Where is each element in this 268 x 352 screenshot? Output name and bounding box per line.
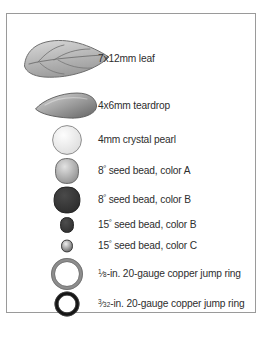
legend-row-label: 4mm crystal pearl	[98, 135, 176, 145]
figure-frame: 7x12mm leaf4x6mm teardrop4mm crystal pea…	[6, 13, 256, 313]
seed-bead-8-color-a-icon	[52, 155, 82, 187]
label-text: 4mm crystal pearl	[98, 134, 176, 145]
label-text: seed bead, color A	[106, 165, 190, 176]
materials-legend-figure: 7x12mm leaf4x6mm teardrop4mm crystal pea…	[0, 0, 268, 352]
seed-bead-15-color-c-icon	[58, 237, 76, 256]
legend-row-label: 15º seed bead, color C	[98, 241, 197, 251]
teardrop-bead-icon	[32, 89, 100, 123]
label-text: seed bead, color B	[111, 219, 196, 230]
seed-bead-8-color-b-icon	[51, 184, 84, 217]
jump-ring-large-icon	[48, 255, 86, 293]
label-text: seed bead, color B	[106, 194, 191, 205]
size-prefix: 15	[98, 240, 109, 251]
label-text: 7x12mm leaf	[98, 53, 155, 64]
seed-bead-15-color-b-icon	[57, 214, 77, 236]
crystal-pearl-bead-icon	[49, 122, 85, 158]
label-text: -in. 20-gauge copper jump ring	[110, 298, 244, 309]
fraction: 3⁄32	[98, 299, 110, 308]
label-text: -in. 20-gauge copper jump ring	[107, 268, 241, 279]
legend-row-label: 8º seed bead, color A	[98, 166, 190, 176]
label-text: 4x6mm teardrop	[98, 100, 170, 111]
legend-row-label: 7x12mm leaf	[98, 54, 155, 64]
legend-list: 7x12mm leaf4x6mm teardrop4mm crystal pea…	[7, 14, 255, 312]
legend-row-label: 3⁄32-in. 20-gauge copper jump ring	[98, 299, 244, 309]
legend-row-label: 1⁄8-in. 20-gauge copper jump ring	[98, 269, 241, 279]
legend-row-label: 4x6mm teardrop	[98, 101, 170, 111]
label-text: seed bead, color C	[111, 240, 197, 251]
legend-row-label: 15º seed bead, color B	[98, 220, 196, 230]
size-prefix: 15	[98, 219, 109, 230]
jump-ring-small-icon	[52, 289, 83, 320]
legend-row-label: 8º seed bead, color B	[98, 195, 191, 205]
fraction: 1⁄8	[98, 269, 107, 278]
